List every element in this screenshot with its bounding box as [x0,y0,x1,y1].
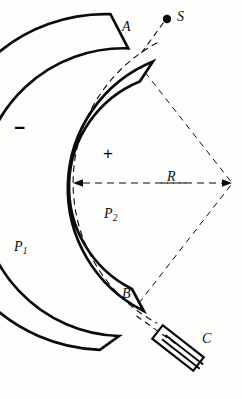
label-detector: C [202,332,211,346]
label-inner-plate-letter: P [104,206,113,221]
label-radius: R [167,170,176,184]
label-outer-plate: P1 [14,240,28,257]
inner-plate-p2 [68,62,153,312]
incoming-beam-dashed [140,23,164,56]
label-entrance-aperture: A [122,20,131,34]
radial-line-lower [139,186,231,304]
radius-arrowhead-left [73,179,83,187]
source-dot [163,15,171,23]
outer-plate-p1 [0,14,128,350]
label-inner-plate-subscript: 2 [113,213,118,223]
detector-plate-line-1 [165,335,203,365]
label-outer-plate-letter: P [14,239,23,254]
label-exit-aperture: B [122,287,131,301]
radius-dimension [73,179,232,187]
label-source: S [177,10,184,24]
label-outer-plate-subscript: 1 [23,246,28,256]
detector-body [152,325,203,370]
detector-plate-line-2 [162,339,200,369]
detector-c [152,325,207,373]
label-inner-plate: P2 [104,207,118,224]
polarity-plus-sign: + [103,145,113,162]
polarity-minus-sign: − [14,118,25,137]
radial-line-upper [141,67,231,182]
